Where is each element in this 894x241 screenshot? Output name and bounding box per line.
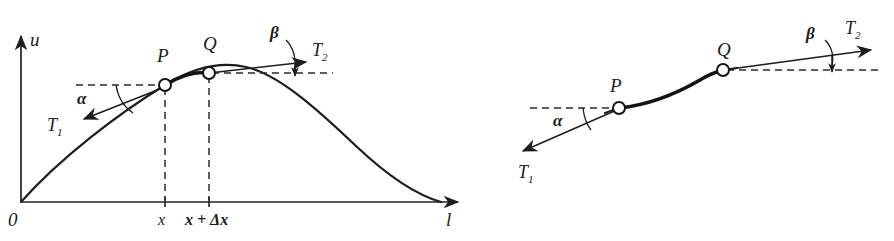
element-arc-detail (619, 70, 723, 108)
point-p-label: P (156, 45, 169, 66)
origin-label: 0 (8, 209, 18, 230)
left-panel: u 0 l x x + Δx α T1 (8, 23, 458, 230)
alpha-angle-arc-detail (583, 108, 591, 130)
point-q-label-detail: Q (717, 39, 731, 60)
t2-force-label: T2 (312, 40, 328, 63)
t1-force-vector (84, 87, 165, 119)
x-tick-label: x (157, 211, 165, 228)
x-plus-delta-tick-label: x + Δx (184, 211, 228, 228)
t1-force-label: T1 (47, 115, 63, 138)
length-label: l (446, 209, 451, 230)
beta-angle-label-detail: β (805, 24, 815, 43)
t2-force-label-detail: T2 (845, 18, 861, 41)
right-panel: α T1 β T2 P Q (518, 18, 878, 185)
figure-root: u 0 l x x + Δx α T1 (0, 0, 894, 241)
beta-angle-arc (286, 40, 295, 70)
deflection-curve (21, 65, 441, 202)
point-q-label: Q (203, 33, 217, 54)
point-p-marker (159, 79, 171, 91)
string-vibration-figure: u 0 l x x + Δx α T1 (0, 0, 894, 241)
t1-force-label-detail: T1 (518, 162, 534, 185)
alpha-angle-label: α (77, 89, 87, 108)
u-axis-label: u (30, 29, 40, 50)
point-q-marker (203, 67, 215, 79)
point-p-label-detail: P (609, 75, 622, 96)
t2-force-vector-detail (723, 50, 871, 70)
point-p-marker-detail (613, 102, 625, 114)
t1-force-vector-detail (523, 109, 619, 151)
point-q-marker-detail (717, 64, 729, 76)
beta-angle-label: β (269, 23, 279, 42)
alpha-angle-label-detail: α (553, 111, 563, 130)
